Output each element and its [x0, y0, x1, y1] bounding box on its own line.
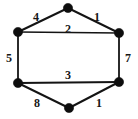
graph-edge-lower-left-to-lower-right	[18, 82, 119, 83]
node-upper-right	[114, 28, 123, 37]
edge-weight-label-upper-left-to-top: 4	[33, 11, 39, 23]
graph-edge-upper-left-to-top	[18, 8, 68, 32]
edge-weight-label-top-to-upper-right: 1	[94, 11, 100, 23]
graph-edge-lower-left-to-bottom	[18, 83, 69, 108]
edge-weight-label-lower-left-to-lower-right: 3	[65, 69, 71, 81]
graph-edge-bottom-to-lower-right	[69, 82, 119, 108]
edge-weight-label-upper-left-to-upper-right: 2	[65, 23, 71, 35]
edge-weight-label-bottom-to-lower-right: 1	[96, 97, 102, 109]
weighted-graph-figure: 41257381	[0, 0, 138, 119]
node-upper-left	[13, 27, 22, 36]
graph-canvas	[0, 0, 138, 119]
node-bottom	[64, 103, 73, 112]
edge-weight-label-upper-left-to-lower-left: 5	[6, 52, 12, 64]
edge-weight-label-upper-right-to-lower-right: 7	[125, 52, 131, 64]
node-lower-right	[114, 77, 123, 86]
edge-weight-label-lower-left-to-bottom: 8	[34, 97, 40, 109]
node-layer	[13, 3, 123, 112]
node-top	[63, 3, 72, 12]
node-lower-left	[13, 78, 22, 87]
